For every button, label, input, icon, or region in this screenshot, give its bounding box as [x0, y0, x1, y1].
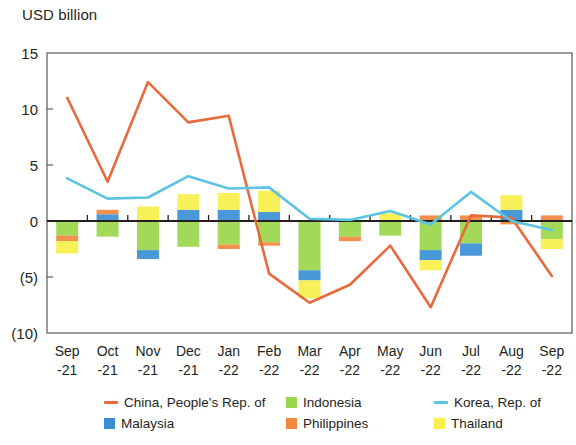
y-axis-tick-label: 15: [21, 45, 38, 62]
x-axis-tick-label: -22: [461, 362, 481, 378]
chart-legend: China, People's Rep. ofIndonesiaKorea, R…: [104, 392, 566, 434]
bar-segment: [97, 210, 119, 214]
x-axis-tick-label: Jun: [419, 343, 442, 359]
bar-segment: [299, 270, 321, 280]
y-axis-tick-label: (5): [20, 269, 38, 286]
x-axis-tick-label: May: [377, 343, 403, 359]
bar-segment: [218, 221, 240, 245]
legend-item[interactable]: Malaysia: [104, 416, 286, 431]
x-axis-tick-label: Dec: [176, 343, 201, 359]
x-axis-tick-label: -22: [299, 362, 319, 378]
y-axis-tick-label: (10): [11, 325, 38, 342]
bar-series-group: [56, 191, 563, 299]
legend-label: Korea, Rep. of: [454, 395, 541, 410]
bar-segment: [541, 239, 563, 249]
bar-segment: [299, 221, 321, 270]
legend-label: Thailand: [451, 416, 503, 431]
x-axis-tick-label: Jan: [217, 343, 240, 359]
bar-segment: [339, 221, 361, 237]
bar-segment: [339, 237, 361, 241]
x-axis-tick-label: -22: [259, 362, 279, 378]
legend-line-icon: [434, 401, 448, 404]
y-axis-tick-label: 5: [30, 157, 38, 174]
legend-line-icon: [104, 401, 118, 404]
x-axis-tick-label: Feb: [257, 343, 281, 359]
y-axis-tick-label: 10: [21, 101, 38, 118]
x-axis-tick-label: Mar: [297, 343, 321, 359]
bar-segment: [177, 194, 199, 210]
bar-segment: [177, 221, 199, 247]
x-axis-tick-label: -21: [178, 362, 198, 378]
bar-segment: [420, 250, 442, 260]
bar-segment: [97, 221, 119, 237]
legend-item[interactable]: Korea, Rep. of: [434, 395, 566, 410]
legend-label: China, People's Rep. of: [124, 395, 265, 410]
x-axis-tick-label: -21: [97, 362, 117, 378]
legend-item[interactable]: Philippines: [286, 416, 434, 431]
x-axis-tick-label: Nov: [136, 343, 161, 359]
x-axis-tick-label: -22: [501, 362, 521, 378]
x-axis-tick-label: Oct: [97, 343, 119, 359]
bar-segment: [97, 214, 119, 221]
x-axis-tick-label: -21: [138, 362, 158, 378]
chart-container: USD billion 151050(5)(10)Sep-21Oct-21Nov…: [0, 0, 576, 445]
legend-label: Indonesia: [303, 395, 362, 410]
bar-segment: [299, 280, 321, 298]
bar-segment: [218, 210, 240, 221]
x-axis-tick-label: -22: [421, 362, 441, 378]
bar-segment: [218, 193, 240, 210]
bar-segment: [137, 206, 159, 221]
x-axis-tick-label: Apr: [339, 343, 361, 359]
y-axis-tick-label: 0: [30, 213, 38, 230]
x-axis-tick-label: Sep: [55, 343, 80, 359]
legend-swatch-icon: [286, 397, 297, 408]
legend-item[interactable]: Thailand: [434, 416, 566, 431]
bar-segment: [258, 212, 280, 221]
bar-segment: [56, 241, 78, 253]
bar-segment: [137, 221, 159, 250]
bar-segment: [56, 221, 78, 236]
x-axis-tick-label: Aug: [499, 343, 524, 359]
x-axis-tick-label: -22: [380, 362, 400, 378]
bar-segment: [420, 260, 442, 270]
legend-label: Philippines: [303, 416, 368, 431]
x-axis-tick-label: -22: [219, 362, 239, 378]
bar-segment: [177, 210, 199, 221]
legend-swatch-icon: [286, 418, 297, 429]
legend-swatch-icon: [104, 418, 115, 429]
chart-plot-area: 151050(5)(10)Sep-21Oct-21Nov-21Dec-21Jan…: [0, 0, 576, 390]
legend-label: Malaysia: [121, 416, 174, 431]
x-axis-tick-label: Jul: [462, 343, 480, 359]
legend-swatch-icon: [434, 418, 445, 429]
bar-segment: [460, 243, 482, 255]
bar-segment: [137, 250, 159, 259]
bar-segment: [56, 236, 78, 242]
x-axis-tick-label: Sep: [539, 343, 564, 359]
x-axis-tick-label: -22: [340, 362, 360, 378]
x-axis-tick-label: -22: [542, 362, 562, 378]
x-axis-tick-label: -21: [57, 362, 77, 378]
bar-segment: [379, 221, 401, 236]
bar-segment: [218, 245, 240, 249]
legend-item[interactable]: Indonesia: [286, 395, 434, 410]
bar-segment: [500, 195, 522, 210]
legend-item[interactable]: China, People's Rep. of: [104, 395, 286, 410]
